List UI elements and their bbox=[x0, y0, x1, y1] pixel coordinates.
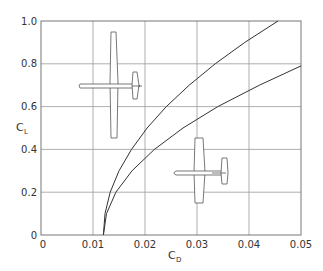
svg-text:L: L bbox=[24, 128, 28, 136]
svg-text:1.0: 1.0 bbox=[21, 16, 37, 27]
grid bbox=[41, 21, 301, 235]
drag-polar-chart: 0 0.2 0.4 0.6 0.8 1.0 0 0.01 0.02 0.03 0… bbox=[0, 0, 323, 271]
svg-text:0.6: 0.6 bbox=[21, 101, 37, 112]
svg-text:0: 0 bbox=[31, 230, 37, 241]
svg-text:0.4: 0.4 bbox=[21, 144, 37, 155]
svg-text:0.02: 0.02 bbox=[134, 239, 156, 250]
x-axis-label: C D bbox=[168, 249, 181, 264]
svg-text:0.03: 0.03 bbox=[186, 239, 208, 250]
svg-text:0: 0 bbox=[40, 239, 46, 250]
x-axis-ticks: 0 0.01 0.02 0.03 0.04 0.05 bbox=[40, 239, 312, 250]
plot-frame bbox=[41, 21, 301, 235]
high-aspect-ratio-aircraft-icon bbox=[79, 32, 142, 138]
svg-text:D: D bbox=[176, 256, 181, 264]
svg-text:0.8: 0.8 bbox=[21, 58, 37, 69]
svg-text:C: C bbox=[16, 121, 24, 134]
svg-text:0.2: 0.2 bbox=[21, 187, 37, 198]
svg-text:C: C bbox=[168, 249, 176, 262]
low-aspect-ratio-aircraft-icon bbox=[174, 138, 228, 203]
series-high-aspect-ratio bbox=[103, 21, 278, 235]
y-axis-label: C L bbox=[16, 121, 28, 136]
svg-text:0.01: 0.01 bbox=[82, 239, 104, 250]
svg-text:0.04: 0.04 bbox=[238, 239, 260, 250]
svg-text:0.05: 0.05 bbox=[290, 239, 312, 250]
